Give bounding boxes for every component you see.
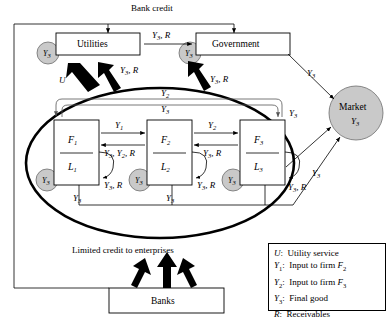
firm1-drop-label: Y3 [73, 193, 82, 204]
utilities-label: Utilities [77, 39, 108, 49]
edge-firms-to-utilities-thick: Y3, R [98, 62, 139, 92]
arc-label-y2: Y2 [161, 88, 170, 99]
diagram-canvas: Bank credit Y3 Utilities Y3 Government Y… [0, 0, 392, 320]
edge-label-gov-up: Y3, R [210, 74, 229, 85]
edge-label-f2-to-f1: Y3, Y2, R [104, 148, 136, 159]
edge-label-util-up: Y3, R [120, 65, 139, 76]
firm1-selfloop-label: Y3, R [104, 180, 123, 191]
edge-label-y2-mid: Y2 [208, 120, 217, 131]
legend-item-U: U: Utility service [274, 247, 385, 259]
edge-label-gov-to-market: Y3 [307, 68, 316, 79]
rail-label-y3: Y3 [312, 168, 321, 179]
bottom-label-limited-credit: Limited credit to enterprises [72, 245, 174, 255]
firm2-drop-label: Y3 [166, 193, 175, 204]
government-label: Government [212, 39, 260, 49]
edge-label-y1: Y1 [115, 120, 123, 131]
legend-item-Y2: Y2: Input to firm F3 [274, 276, 385, 292]
firm2-selfloop-label: Y3, R [197, 180, 216, 191]
market-label: Market [339, 102, 367, 112]
node-utilities[interactable]: Y3 Utilities [37, 33, 140, 64]
firm3-selfloop-label: Y3, R [288, 182, 307, 193]
edge-utilities-to-government: Y3, R [144, 30, 192, 44]
market-circle [329, 86, 383, 140]
firm2-rect [147, 120, 192, 185]
top-label-bank-credit: Bank credit [131, 3, 173, 13]
edge-utility-service-thick: U [59, 63, 100, 92]
node-market[interactable]: Market Y3 [329, 86, 383, 140]
legend-item-Y1: Y1: Input to firm F2 [274, 259, 385, 275]
edge-government-to-market: Y3 [288, 54, 334, 99]
legend-item-R: R: Receivables [274, 308, 385, 320]
edge-firms-to-government-thick: Y3, R [188, 61, 229, 91]
node-banks[interactable]: Banks [109, 288, 224, 313]
firm1-rect [54, 120, 99, 185]
arc-label-y3: Y3 [161, 104, 170, 115]
banks-label: Banks [151, 296, 175, 306]
legend-panel: U: Utility service Y1: Input to firm F2 … [268, 243, 386, 311]
edge-limited-credit-thick: Limited credit to enterprises [72, 245, 197, 288]
firm3-rect [240, 120, 285, 185]
edge-label-U: U [59, 75, 66, 85]
edge-label-firm3-to-market: Y3 [289, 108, 298, 119]
legend-item-Y3: Y3: Final good [274, 292, 385, 308]
node-government[interactable]: Y3 Government [179, 33, 290, 64]
edge-label-f3-to-f2: Y3, R [203, 148, 222, 159]
edge-firm1-firm2: Y1 Y3, Y2, R [101, 120, 145, 159]
edge-label-util-to-gov: Y3, R [152, 30, 171, 41]
